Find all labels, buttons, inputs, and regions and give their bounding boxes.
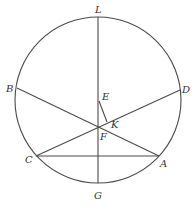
point-label-B: B [5,83,13,94]
point-label-A: A [159,158,167,169]
segments [17,17,180,183]
segment-BA [17,88,159,156]
point-label-K: K [110,119,119,130]
point-label-C: C [25,154,33,165]
point-label-F: F [99,131,108,142]
segment-EK [99,101,107,122]
point-label-L: L [94,4,102,15]
point-label-G: G [94,190,102,201]
geometry-diagram: LBDEKFCAG [0,0,194,211]
point-label-D: D [181,84,190,95]
point-label-E: E [101,91,110,102]
